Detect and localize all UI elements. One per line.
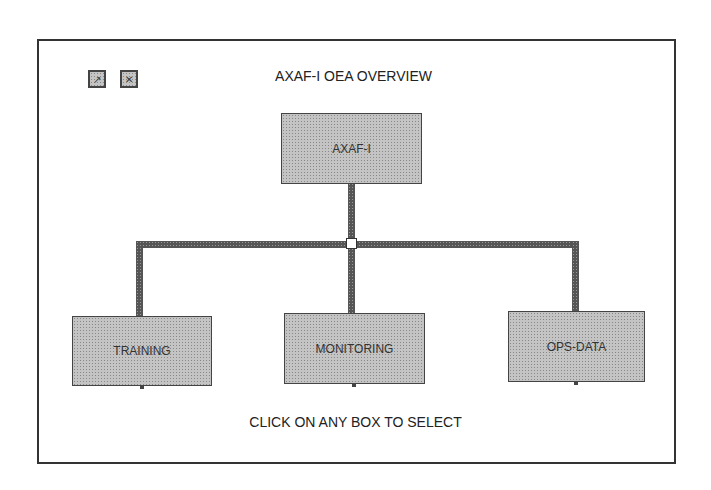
node-anchor	[574, 381, 578, 385]
instruction-text: CLICK ON ANY BOX TO SELECT	[0, 414, 711, 430]
node-axaf-i[interactable]: AXAF-I	[281, 113, 422, 184]
connector-training	[136, 241, 143, 318]
node-anchor	[140, 385, 144, 389]
node-label: MONITORING	[316, 342, 394, 356]
overview-window	[37, 39, 676, 464]
node-label: OPS-DATA	[547, 340, 607, 354]
node-monitoring[interactable]: MONITORING	[284, 313, 425, 384]
node-training[interactable]: TRAINING	[72, 316, 212, 386]
node-label: AXAF-I	[332, 142, 371, 156]
connector-root-stem	[348, 183, 355, 240]
junction-node	[346, 238, 357, 249]
page-title: AXAF-I OEA OVERVIEW	[0, 68, 711, 84]
connector-ops-data	[572, 241, 579, 312]
node-label: TRAINING	[113, 344, 170, 358]
node-ops-data[interactable]: OPS-DATA	[508, 311, 645, 382]
connector-monitoring	[348, 248, 355, 314]
connector-horizontal-bar	[136, 241, 579, 248]
node-anchor	[352, 383, 356, 387]
